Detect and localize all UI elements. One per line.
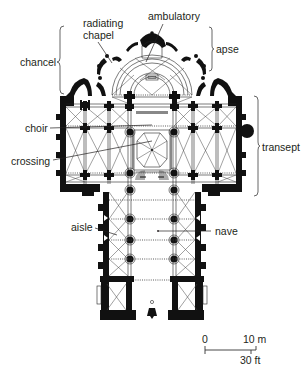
- label-choir: choir: [25, 122, 48, 134]
- label-ambulatory: ambulatory: [148, 10, 201, 22]
- crossing: [132, 130, 172, 180]
- label-aisle: aisle: [71, 221, 93, 233]
- label-radiating-line1: radiating: [83, 17, 123, 29]
- label-apse: apse: [216, 43, 239, 55]
- scale-imperial: 30 ft: [240, 354, 261, 366]
- scale-zero: 0: [202, 333, 208, 345]
- chancel-brace: [57, 26, 64, 94]
- apse: [112, 31, 192, 95]
- label-transept: transept: [262, 141, 300, 153]
- labels: ambulatory radiating chapel chancel apse…: [11, 10, 300, 237]
- transept-brace: [254, 96, 260, 196]
- scale-bar: 0 10 m 30 ft: [202, 333, 267, 366]
- apse-brace: [209, 27, 214, 71]
- label-nave: nave: [215, 225, 238, 237]
- plan-drawing: [56, 31, 254, 320]
- radiating-chapels: [97, 42, 206, 80]
- nave: [97, 190, 207, 320]
- label-chancel: chancel: [20, 56, 56, 68]
- label-radiating-line2: chapel: [83, 29, 114, 41]
- scale-metric: 10 m: [243, 333, 267, 345]
- label-crossing: crossing: [11, 155, 50, 167]
- cathedral-floor-plan: ambulatory radiating chapel chancel apse…: [0, 0, 303, 380]
